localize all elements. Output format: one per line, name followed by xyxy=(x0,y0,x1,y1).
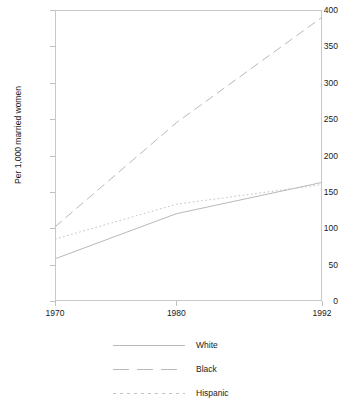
y-tick-mark xyxy=(50,119,55,120)
y-tick-label: 150 xyxy=(312,188,338,197)
y-tick-label: 200 xyxy=(312,152,338,161)
plot-area xyxy=(55,10,322,301)
legend-label: Black xyxy=(196,364,217,374)
y-tick-label: 400 xyxy=(312,6,338,15)
y-tick-mark xyxy=(50,83,55,84)
y-tick-label: 300 xyxy=(312,79,338,88)
y-axis-label: Per 1,000 married women xyxy=(13,60,23,210)
legend-label: Hispanic xyxy=(196,388,229,398)
y-tick-label: 350 xyxy=(312,42,338,51)
y-tick-mark xyxy=(50,228,55,229)
legend-line-sample xyxy=(113,393,185,394)
x-tick-label: 1992 xyxy=(302,309,342,318)
legend-entry-black: Black xyxy=(0,358,338,382)
y-tick-mark xyxy=(50,192,55,193)
x-tick-mark xyxy=(55,301,56,306)
legend-line-sample xyxy=(113,369,185,370)
y-tick-mark xyxy=(50,46,55,47)
x-tick-label: 1970 xyxy=(35,309,75,318)
y-tick-label: 0 xyxy=(312,297,338,306)
y-tick-mark xyxy=(50,10,55,11)
x-tick-label: 1980 xyxy=(156,309,196,318)
x-tick-mark xyxy=(322,301,323,306)
legend-line-sample xyxy=(113,345,185,346)
legend-entry-hispanic: Hispanic xyxy=(0,382,338,406)
y-tick-label: 250 xyxy=(312,115,338,124)
y-tick-mark xyxy=(50,265,55,266)
y-tick-label: 100 xyxy=(312,224,338,233)
y-tick-mark xyxy=(50,156,55,157)
y-tick-label: 50 xyxy=(312,261,338,270)
legend-label: White xyxy=(196,340,218,350)
x-tick-mark xyxy=(176,301,177,306)
chart-legend: WhiteBlackHispanic xyxy=(0,334,338,406)
legend-entry-white: White xyxy=(0,334,338,358)
